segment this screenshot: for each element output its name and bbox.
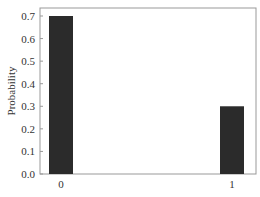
bar-chart: 0.00.10.20.30.40.50.60.7 01 Probability — [0, 0, 260, 197]
y-tick-label: 0.5 — [21, 55, 35, 67]
y-tick-label: 0.0 — [21, 168, 35, 180]
y-tick-label: 0.1 — [21, 145, 35, 157]
x-axis: 01 — [58, 178, 235, 190]
y-tick-label: 0.7 — [21, 10, 35, 22]
y-tick-label: 0.4 — [21, 78, 35, 90]
bar-0 — [49, 16, 73, 174]
y-tick-label: 0.2 — [21, 123, 35, 135]
x-tick-label: 0 — [58, 178, 64, 190]
y-tick-label: 0.3 — [21, 100, 35, 112]
y-axis-label: Probability — [5, 66, 17, 115]
y-tick-label: 0.6 — [21, 33, 35, 45]
bar-1 — [220, 106, 244, 174]
x-tick-label: 1 — [229, 178, 235, 190]
